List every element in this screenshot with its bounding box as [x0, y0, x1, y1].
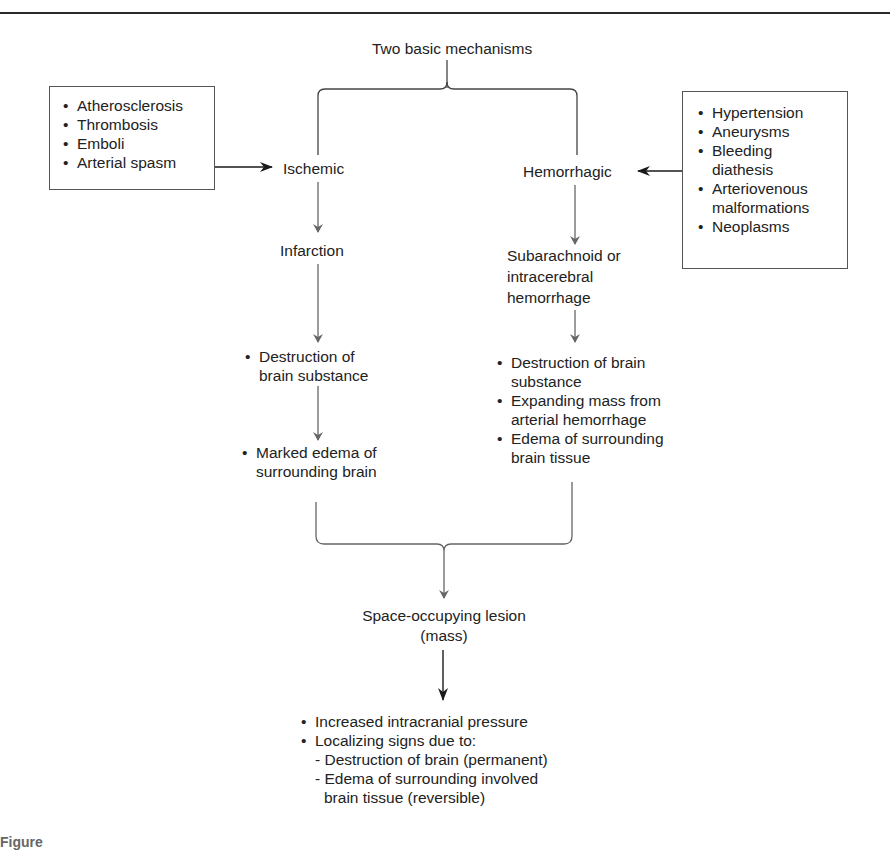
ischemic-causes-box: Atherosclerosis Thrombosis Emboli Arteri…: [49, 86, 215, 190]
figure-caption-cutoff: Figure: [0, 834, 43, 850]
infarction-label: Infarction: [280, 241, 344, 260]
subarachnoid-label: Subarachnoid orintracerebralhemorrhage: [507, 245, 621, 308]
mass-lesion-label: Space-occupying lesion(mass): [361, 606, 527, 646]
cause-item: Emboli: [62, 134, 214, 153]
cause-item: Neoplasms: [697, 217, 847, 236]
cause-item: Arterial spasm: [62, 153, 214, 172]
ischemic-destruction: Destruction ofbrain substance: [244, 347, 368, 385]
root-label: Two basic mechanisms: [372, 39, 532, 58]
cause-item: Aneurysms: [697, 122, 847, 141]
hemorrhagic-effects: Destruction of brainsubstance Expanding …: [496, 353, 664, 467]
cause-item: Arteriovenousmalformations: [697, 179, 847, 217]
top-brace: [318, 60, 577, 155]
cause-item: Bleedingdiathesis: [697, 141, 847, 179]
ischemic-label: Ischemic: [283, 159, 344, 178]
cause-item: Atherosclerosis: [62, 96, 214, 115]
cause-item: Thrombosis: [62, 115, 214, 134]
hemorrhagic-label: Hemorrhagic: [523, 162, 612, 181]
cause-item: Hypertension: [697, 103, 847, 122]
outcomes-list: Increased intracranial pressure Localizi…: [300, 712, 548, 807]
bottom-brace: [316, 482, 572, 598]
ischemic-edema: Marked edema ofsurrounding brain: [241, 443, 377, 481]
hemorrhagic-causes-box: Hypertension Aneurysms Bleedingdiathesis…: [682, 91, 848, 269]
